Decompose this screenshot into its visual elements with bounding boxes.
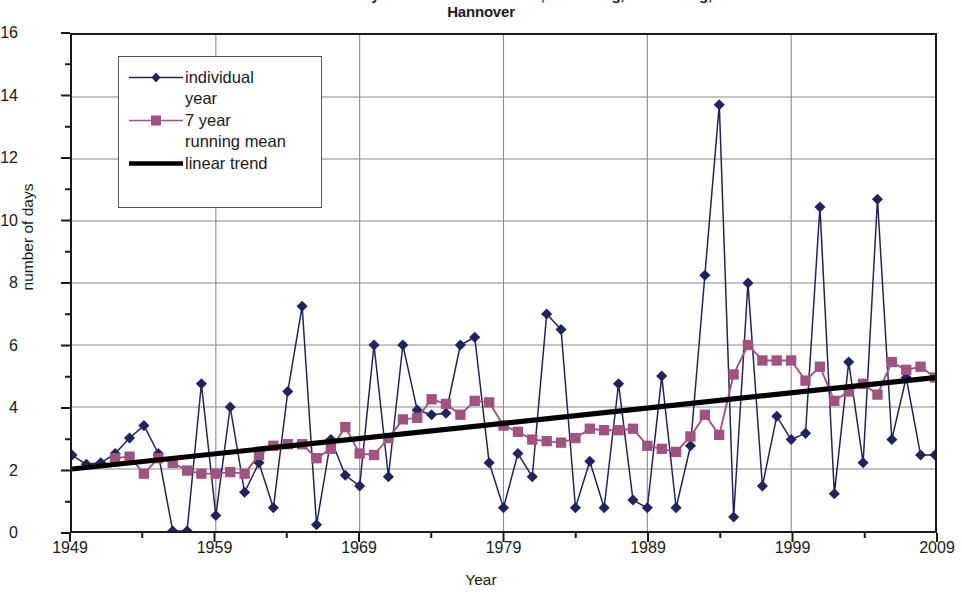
data-point-marker [470, 396, 480, 406]
data-point-marker [210, 510, 221, 521]
data-point-marker [196, 469, 206, 479]
legend-label-running-mean: 7 year running mean [185, 110, 286, 152]
data-point-marker [282, 386, 293, 397]
data-point-marker [829, 396, 839, 406]
data-point-marker [829, 488, 840, 499]
x-axis-tick-label: 2009 [892, 540, 962, 556]
x-axis-tick-label: 1979 [459, 540, 549, 556]
y-axis-tick-label: 4 [0, 400, 18, 416]
data-point-marker [915, 449, 926, 460]
data-point-marker [397, 339, 408, 350]
data-point-marker [225, 467, 235, 477]
legend-label-linear-trend: linear trend [185, 153, 268, 174]
data-point-marker [728, 369, 738, 379]
chart-title-line-2: Hannover [0, 3, 962, 20]
x-axis-tick-label: 1989 [603, 540, 693, 556]
data-point-marker [412, 413, 422, 423]
data-point-marker [699, 270, 710, 281]
data-point-marker [354, 480, 365, 491]
data-point-marker [484, 397, 494, 407]
data-point-marker [613, 378, 624, 389]
legend-key-individual-year [127, 67, 185, 88]
data-point-marker [929, 449, 935, 460]
y-axis-tick-label: 16 [0, 25, 18, 41]
data-point-marker [627, 494, 638, 505]
data-point-marker [886, 434, 897, 445]
data-point-marker [872, 194, 883, 205]
data-point-marker [714, 430, 724, 440]
data-point-marker [182, 465, 192, 475]
legend-label-line-1: 7 year [185, 111, 231, 129]
y-axis-tick-label: 10 [0, 213, 18, 229]
x-axis-tick-label: 1969 [314, 540, 404, 556]
legend-label-line-1: individual [185, 68, 254, 86]
y-axis-tick-label: 6 [0, 338, 18, 354]
chart-figure: Northern Germany in summer: Greifswald, … [0, 0, 962, 603]
data-point-marker [383, 471, 394, 482]
y-axis-tick-label: 12 [0, 150, 18, 166]
data-point-marker [915, 362, 925, 372]
data-point-marker [570, 502, 581, 513]
data-point-marker [800, 375, 810, 385]
data-point-marker [771, 411, 782, 422]
data-point-marker [426, 394, 436, 404]
data-point-marker [772, 355, 782, 365]
legend-item-linear-trend: linear trend [127, 153, 313, 174]
data-point-marker [599, 425, 609, 435]
data-point-marker [656, 370, 667, 381]
data-point-marker [786, 434, 797, 445]
chart-title: Northern Germany in summer: Greifswald, … [0, 0, 962, 20]
data-point-marker [642, 441, 652, 451]
data-point-marker [354, 448, 364, 458]
data-point-marker [268, 502, 279, 513]
legend-item-individual-year: individual year [127, 67, 313, 109]
data-point-marker [671, 502, 682, 513]
data-point-marker [139, 469, 149, 479]
data-point-marker [512, 448, 523, 459]
data-point-marker [440, 408, 451, 419]
data-point-marker [181, 525, 192, 531]
data-point-marker [642, 502, 653, 513]
data-point-marker [326, 444, 336, 454]
data-point-marker [368, 339, 379, 350]
data-point-marker [167, 525, 178, 531]
data-point-marker [728, 511, 739, 522]
chart-legend: individual year 7 year running mean [118, 56, 322, 208]
data-point-marker [542, 436, 552, 446]
data-point-marker [211, 469, 221, 479]
data-point-marker [455, 410, 465, 420]
data-point-marker [657, 444, 667, 454]
data-point-marker [887, 357, 897, 367]
data-point-marker [398, 414, 408, 424]
data-point-marker [311, 453, 321, 463]
data-point-marker [800, 428, 811, 439]
data-point-marker [441, 399, 451, 409]
data-point-marker [225, 401, 236, 412]
data-point-marker [484, 457, 495, 468]
data-point-marker [757, 480, 768, 491]
data-point-marker [498, 502, 509, 513]
data-point-marker [901, 365, 911, 375]
x-axis-tick-label: 1959 [170, 540, 260, 556]
legend-key-running-mean [127, 110, 185, 131]
data-point-marker [786, 355, 796, 365]
data-point-marker [700, 410, 710, 420]
x-axis-tick-label: 1949 [25, 540, 115, 556]
data-point-marker [527, 471, 538, 482]
data-point-marker [556, 437, 566, 447]
data-point-marker [628, 424, 638, 434]
data-point-marker [858, 457, 869, 468]
data-point-marker [671, 447, 681, 457]
data-point-marker [369, 450, 379, 460]
x-axis-label: Year [0, 571, 962, 589]
data-point-marker [340, 422, 350, 432]
data-point-marker [599, 502, 610, 513]
data-point-marker [513, 427, 523, 437]
data-point-marker [196, 378, 207, 389]
y-axis-tick-label: 8 [0, 275, 18, 291]
data-point-marker [340, 470, 351, 481]
data-point-marker [585, 424, 595, 434]
y-axis-tick-label: 2 [0, 463, 18, 479]
data-point-marker [239, 469, 249, 479]
data-point-marker [527, 434, 537, 444]
